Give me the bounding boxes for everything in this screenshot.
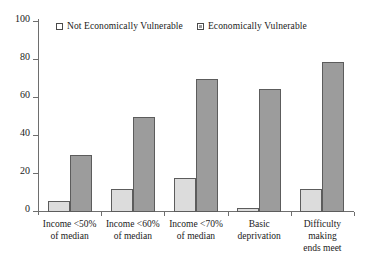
x-tick-4 <box>291 212 292 216</box>
x-tick-2 <box>164 212 165 216</box>
bar-group-5 <box>291 62 354 212</box>
x-category-label-1: Income <50% of median <box>38 218 101 242</box>
bar-group-1 <box>38 155 101 212</box>
bar-1-series-2 <box>70 155 92 212</box>
y-tick-40: 40 <box>33 135 38 136</box>
bar-5-series-1 <box>300 189 322 212</box>
y-tick-label-40: 40 <box>20 128 30 138</box>
y-tick-label-60: 60 <box>20 90 30 100</box>
bar-3-series-1 <box>174 178 196 212</box>
y-tick-60: 60 <box>33 97 38 98</box>
plot-area: 020406080100 <box>38 22 354 212</box>
x-tick-5 <box>354 212 355 216</box>
x-tick-1 <box>101 212 102 216</box>
x-category-label-3: Income <70% of median <box>164 218 227 242</box>
x-category-label-4: Basic deprivation <box>228 218 291 242</box>
bar-3-series-2 <box>196 79 218 212</box>
x-category-label-2: Income <60% of median <box>101 218 164 242</box>
bar-2-series-2 <box>133 117 155 212</box>
bar-2-series-1 <box>111 189 133 212</box>
y-tick-label-80: 80 <box>20 52 30 62</box>
y-tick-80: 80 <box>33 59 38 60</box>
bar-4-series-1 <box>237 208 259 212</box>
bar-chart: Not Economically Vulnerable Economically… <box>0 0 365 275</box>
bar-5-series-2 <box>322 62 344 212</box>
x-tick-3 <box>228 212 229 216</box>
y-tick-label-100: 100 <box>15 14 30 24</box>
bar-1-series-1 <box>48 201 70 212</box>
x-category-label-5: Difficulty making ends meet <box>291 218 354 254</box>
bar-group-2 <box>101 117 164 212</box>
bar-4-series-2 <box>259 89 281 213</box>
y-tick-label-20: 20 <box>20 166 30 176</box>
bar-group-3 <box>164 79 227 212</box>
y-tick-100: 100 <box>33 21 38 22</box>
y-tick-label-0: 0 <box>25 204 30 214</box>
bar-group-4 <box>228 89 291 213</box>
